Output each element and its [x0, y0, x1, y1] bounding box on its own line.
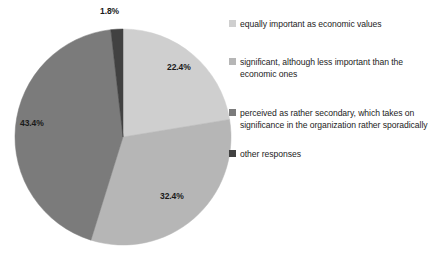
legend-item-label: equally important as economic values	[240, 18, 382, 30]
slice-label-perceived-secondary: 43.4%	[20, 118, 44, 128]
legend-item-label: significant, although less important tha…	[240, 56, 439, 80]
legend-item-label: other responses	[240, 148, 301, 160]
legend-item-label: perceived as rather secondary, which tak…	[240, 107, 439, 131]
legend-item-other-responses[interactable]: other responses	[229, 148, 439, 160]
slice-label-significant: 32.4%	[160, 191, 184, 201]
pie-plot-area: 1.8% 22.4% 32.4% 43.4%	[0, 0, 232, 258]
legend-item-equally-important[interactable]: equally important as economic values	[229, 18, 439, 30]
legend-swatch-icon	[229, 150, 236, 157]
pie-slice-group	[15, 29, 231, 245]
chart-legend: equally important as economic values sig…	[229, 18, 439, 162]
legend-item-perceived-secondary[interactable]: perceived as rather secondary, which tak…	[229, 107, 439, 131]
pie-chart-figure: 1.8% 22.4% 32.4% 43.4% equally important…	[0, 0, 445, 258]
legend-item-significant[interactable]: significant, although less important tha…	[229, 56, 439, 80]
pie-slice[interactable]	[123, 29, 230, 137]
pie-svg	[0, 0, 232, 258]
legend-swatch-icon	[229, 20, 236, 27]
slice-label-other-responses: 1.8%	[100, 6, 119, 16]
legend-swatch-icon	[229, 58, 236, 65]
legend-swatch-icon	[229, 109, 236, 116]
slice-label-equally-important: 22.4%	[167, 62, 191, 72]
